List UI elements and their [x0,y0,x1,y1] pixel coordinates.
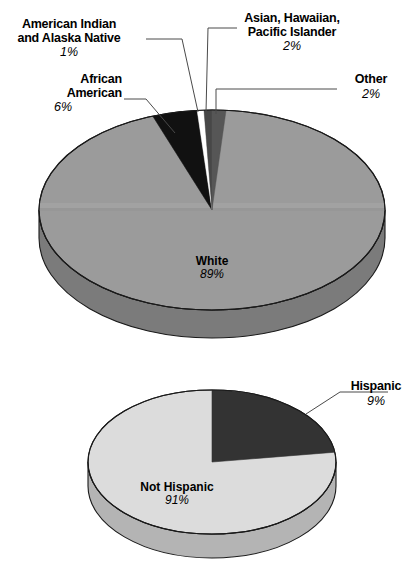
label-american-indian-line2: and Alaska Native [12,32,126,46]
ethnicity-slice-hispanic [212,390,335,462]
label-hispanic-name: Hispanic [334,380,418,394]
figure-canvas: American Indian and Alaska Native 1% Afr… [0,0,420,581]
label-white: White 89% [162,255,262,282]
label-african-american: African American 6% [4,73,122,114]
label-american-indian-line1: American Indian [12,18,126,32]
label-african-american-line1: African [4,73,122,87]
label-african-american-line2: American [4,87,122,101]
label-asian-line1: Asian, Hawaiian, [228,12,356,26]
label-other-name: Other [340,73,402,87]
label-other-pct: 2% [340,87,402,101]
label-american-indian-pct: 1% [12,45,126,59]
label-asian-pct: 2% [228,39,356,53]
label-not-hispanic: Not Hispanic 91% [118,481,236,508]
label-asian: Asian, Hawaiian, Pacific Islander 2% [228,12,356,53]
label-african-american-pct: 6% [4,100,122,114]
label-hispanic-pct: 9% [334,394,418,408]
label-white-pct: 89% [162,268,262,282]
label-asian-line2: Pacific Islander [228,26,356,40]
label-not-hispanic-pct: 91% [118,494,236,508]
label-other: Other 2% [340,73,402,101]
label-hispanic: Hispanic 9% [334,380,418,408]
label-american-indian: American Indian and Alaska Native 1% [12,18,126,59]
